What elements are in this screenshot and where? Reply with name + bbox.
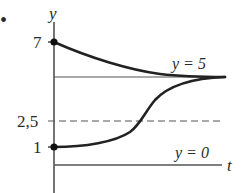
initial-point-7	[50, 38, 57, 45]
solution-curves-chart: • y t y = 5 y = 0 7 2,5 1	[0, 0, 241, 193]
equilibrium-label-y0: y = 0	[173, 144, 209, 162]
initial-point-1	[50, 143, 57, 150]
tick-label-2-5: 2,5	[17, 112, 38, 131]
bullet-marker: •	[0, 9, 7, 31]
solution-curve-from-1	[54, 77, 225, 147]
y-axis-label: y	[47, 4, 57, 23]
equilibrium-label-y5: y = 5	[170, 55, 206, 73]
tick-label-1: 1	[33, 138, 42, 157]
tick-label-7: 7	[33, 33, 42, 52]
t-axis-label: t	[227, 156, 233, 175]
